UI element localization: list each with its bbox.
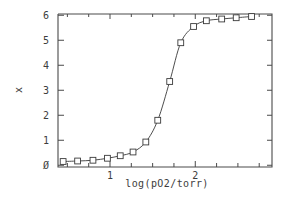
data-point-marker bbox=[90, 157, 96, 163]
y-tick-label: 5 bbox=[43, 35, 49, 46]
data-point-marker bbox=[233, 15, 239, 21]
data-point-marker bbox=[143, 139, 149, 145]
data-point-marker bbox=[167, 79, 173, 85]
data-point-marker bbox=[178, 40, 184, 46]
data-point-marker bbox=[191, 24, 197, 30]
data-point-marker bbox=[130, 149, 136, 155]
data-point-marker bbox=[203, 18, 209, 24]
data-point-marker bbox=[60, 159, 66, 165]
y-axis-label: x bbox=[13, 87, 24, 93]
x-axis-label: log(pO2/torr) bbox=[125, 178, 208, 189]
data-point-marker bbox=[155, 117, 161, 123]
plot-area: 12 Ø123456 log(pO2/torr) x bbox=[0, 0, 284, 197]
y-tick-label: Ø bbox=[43, 160, 49, 171]
data-point-marker bbox=[105, 155, 111, 161]
x-tick-label: 1 bbox=[107, 170, 113, 181]
chart-figure: 12 Ø123456 log(pO2/torr) x bbox=[0, 0, 284, 197]
data-point-marker bbox=[249, 14, 255, 20]
data-point-marker bbox=[219, 16, 225, 22]
data-point-marker bbox=[117, 153, 123, 159]
y-tick-label: 6 bbox=[43, 10, 49, 21]
y-tick-label: 2 bbox=[43, 110, 49, 121]
y-tick-label: 1 bbox=[43, 135, 49, 146]
y-tick-label: 3 bbox=[43, 85, 49, 96]
y-tick-label: 4 bbox=[43, 60, 49, 71]
data-point-marker bbox=[75, 158, 81, 164]
